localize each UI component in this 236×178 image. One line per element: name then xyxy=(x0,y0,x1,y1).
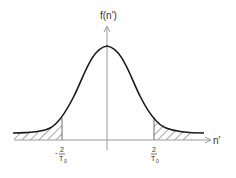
svg-text:0: 0 xyxy=(64,158,67,164)
left-tail-shading xyxy=(14,118,62,140)
x-axis-label: n' xyxy=(213,135,221,146)
left-tick-label: - 2 T 0 xyxy=(55,146,67,164)
svg-text:0: 0 xyxy=(156,158,159,164)
right-tick-label: 2 T 0 xyxy=(151,146,159,164)
svg-text:-: - xyxy=(55,148,58,157)
svg-text:2: 2 xyxy=(152,146,156,153)
gaussian-curve xyxy=(13,46,204,133)
y-axis-label: f(n') xyxy=(100,10,117,21)
gaussian-diagram: f(n') n' - 2 T 0 2 T 0 xyxy=(0,0,236,178)
right-tail-shading xyxy=(154,117,192,140)
svg-text:2: 2 xyxy=(60,146,64,153)
